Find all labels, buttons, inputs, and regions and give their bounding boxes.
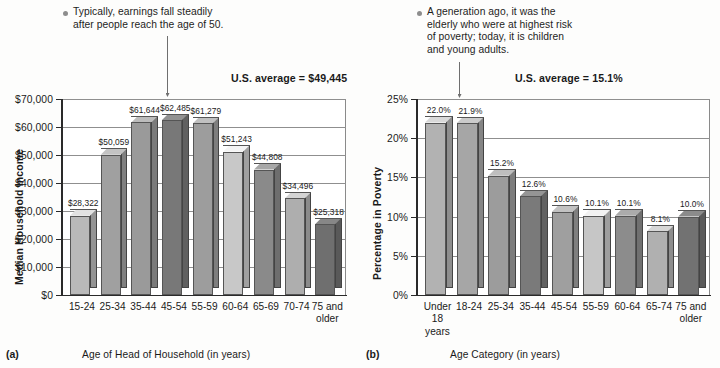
bar-front-face — [315, 224, 335, 295]
bar-side-face — [335, 218, 342, 289]
bar — [520, 190, 548, 295]
x-axis-line — [416, 295, 711, 296]
bar — [315, 218, 342, 295]
gridline — [417, 99, 710, 100]
bar-side-face — [604, 209, 611, 288]
bar-front-face — [520, 196, 541, 295]
bar-side-face — [213, 117, 220, 289]
bar-value-label: 15.2% — [490, 158, 514, 168]
bar-front-face — [254, 170, 274, 295]
bar-side-face — [446, 116, 453, 288]
bar-value-label: 21.9% — [458, 106, 482, 116]
bar — [223, 145, 250, 295]
annotation-callout: Typically, earnings fall steadily after … — [63, 6, 263, 31]
x-axis-category-label: 75 and older — [304, 301, 350, 326]
y-axis-title: Median Household Income — [14, 149, 25, 285]
panel-letter: (b) — [366, 348, 379, 360]
y-axis-title: Percentage in Poverty — [372, 167, 383, 280]
bar-value-label: 10.0% — [680, 199, 704, 209]
y-axis-label: $30,000 — [0, 206, 53, 217]
bar-value-label: $28,322 — [68, 198, 99, 208]
x-axis-title: Age of Head of Household (in years) — [82, 349, 250, 360]
y-axis-line — [61, 99, 63, 296]
annotation-callout: A generation ago, it was the elderly who… — [417, 6, 617, 56]
bar — [162, 114, 189, 295]
bar-front-face — [615, 216, 636, 295]
y-axis-label: $20,000 — [0, 234, 53, 245]
bar — [254, 163, 281, 295]
bar-front-face — [583, 216, 604, 295]
y-axis-label: $60,000 — [0, 122, 53, 133]
y-tick — [56, 267, 61, 268]
bar — [647, 225, 675, 295]
bar — [552, 205, 580, 295]
bar-side-face — [478, 117, 485, 289]
bar-value-label: 10.1% — [585, 198, 609, 208]
x-axis-category-label: 75 and older — [668, 301, 714, 326]
bar-side-face — [243, 145, 250, 288]
bar-side-face — [573, 205, 580, 288]
annotation-leader-line — [459, 62, 460, 97]
bar-front-face — [488, 176, 509, 295]
bar — [193, 117, 220, 295]
average-note: U.S. average = 15.1% — [515, 72, 623, 84]
y-axis-label: $70,000 — [0, 94, 53, 105]
bar-front-face — [131, 122, 151, 295]
y-tick — [56, 155, 61, 156]
y-axis-label: $0 — [0, 290, 53, 301]
bar-front-face — [425, 123, 446, 295]
bar-value-label: 8.1% — [651, 214, 670, 224]
x-axis-title: Age Category (in years) — [450, 349, 560, 360]
bar — [615, 209, 643, 295]
y-axis-line — [416, 99, 418, 296]
bar-front-face — [70, 216, 90, 295]
bar-side-face — [182, 114, 189, 289]
bar-front-face — [101, 155, 121, 295]
bar-front-face — [285, 198, 305, 295]
bar — [678, 210, 706, 295]
y-axis-label: $40,000 — [0, 178, 53, 189]
y-tick — [56, 127, 61, 128]
y-axis-label: 10% — [360, 211, 408, 222]
y-tick — [411, 138, 416, 139]
y-axis-label: 20% — [360, 133, 408, 144]
bar-side-face — [274, 163, 281, 288]
bar-side-face — [541, 190, 548, 289]
y-tick — [411, 217, 416, 218]
bar-value-label: $61,644 — [129, 105, 160, 115]
bar-value-label: 22.0% — [427, 105, 451, 115]
y-axis-label: 5% — [360, 250, 408, 261]
chart-panel-b: A generation ago, it was the elderly who… — [360, 0, 720, 368]
panel-letter: (a) — [6, 348, 19, 360]
bar-side-face — [121, 148, 128, 288]
bar-front-face — [457, 123, 478, 295]
bar-front-face — [647, 231, 668, 295]
bar-side-face — [90, 209, 97, 288]
y-axis-label: $50,000 — [0, 150, 53, 161]
bar-value-label: $34,496 — [283, 181, 314, 191]
y-axis-label: 0% — [360, 290, 408, 301]
bullet-icon — [417, 11, 422, 16]
gridline — [62, 99, 346, 100]
y-tick — [56, 183, 61, 184]
bar-value-label: $44,808 — [252, 152, 283, 162]
bar — [457, 117, 485, 295]
x-axis-line — [61, 295, 347, 296]
y-tick — [411, 295, 416, 296]
bar — [131, 116, 158, 295]
bar — [285, 192, 312, 295]
bar-value-label: $62,485 — [160, 103, 191, 113]
y-tick — [411, 256, 416, 257]
bar-value-label: 10.1% — [617, 198, 641, 208]
y-axis-label: $10,000 — [0, 262, 53, 273]
bar-side-face — [305, 192, 312, 289]
bar-value-label: $61,279 — [191, 106, 222, 116]
bar — [70, 209, 97, 295]
bar-value-label: $51,243 — [221, 134, 252, 144]
y-tick — [56, 239, 61, 240]
bar — [101, 148, 128, 295]
bar-side-face — [668, 225, 675, 289]
chart-panel-a: Typically, earnings fall steadily after … — [0, 0, 360, 368]
bullet-icon — [63, 11, 68, 16]
average-note: U.S. average = $49,445 — [231, 72, 347, 84]
